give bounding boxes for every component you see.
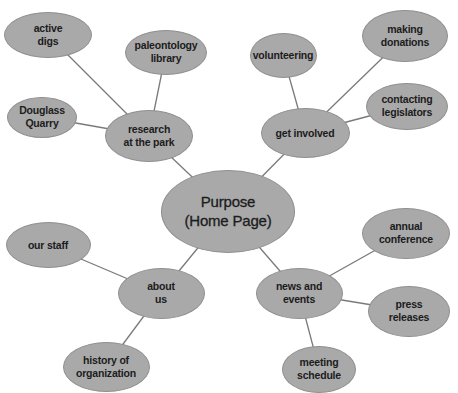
node-get-involved[interactable]: get involved — [261, 108, 350, 158]
node-making-donations[interactable]: making donations — [362, 10, 448, 62]
node-label: Douglass Quarry — [19, 104, 65, 130]
node-contacting-legislators[interactable]: contacting legislators — [366, 83, 448, 130]
node-news-and-events[interactable]: news and events — [256, 268, 343, 319]
mind-map-canvas: Purpose (Home Page)research at the parka… — [0, 0, 458, 393]
node-label: get involved — [276, 127, 335, 140]
node-history-of-organization[interactable]: history of organization — [63, 342, 150, 392]
node-douglass-quarry[interactable]: Douglass Quarry — [7, 97, 77, 138]
node-label: contacting legislators — [381, 93, 432, 119]
node-volunteering[interactable]: volunteering — [250, 33, 317, 78]
node-label: paleontology library — [135, 39, 198, 65]
node-about-us[interactable]: about us — [118, 268, 205, 319]
node-label: volunteering — [253, 49, 314, 62]
node-annual-conference[interactable]: annual conference — [362, 208, 450, 259]
node-paleontology-library[interactable]: paleontology library — [125, 30, 207, 75]
node-our-staff[interactable]: our staff — [6, 222, 91, 268]
node-label: history of organization — [76, 354, 136, 380]
node-meeting-schedule[interactable]: meeting schedule — [282, 346, 356, 393]
node-press-releases[interactable]: press releases — [368, 286, 450, 337]
node-label: making donations — [381, 23, 429, 49]
node-label: news and events — [276, 280, 322, 306]
node-label: research at the park — [124, 123, 175, 149]
node-label: active digs — [34, 22, 63, 48]
node-label: our staff — [28, 239, 68, 252]
node-label: annual conference — [379, 220, 433, 246]
node-active-digs[interactable]: active digs — [4, 12, 92, 58]
node-label: press releases — [389, 298, 429, 324]
node-label: meeting schedule — [297, 356, 341, 382]
node-label: Purpose (Home Page) — [184, 192, 271, 230]
node-label: about us — [147, 280, 175, 306]
node-research[interactable]: research at the park — [105, 110, 193, 162]
node-purpose[interactable]: Purpose (Home Page) — [161, 170, 295, 253]
